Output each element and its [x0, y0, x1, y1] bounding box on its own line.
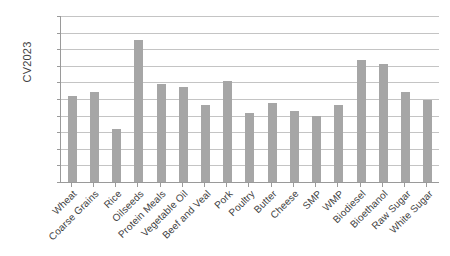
x-tick-mark — [160, 183, 161, 187]
bar — [401, 92, 410, 182]
bar — [179, 87, 188, 182]
bar — [112, 129, 121, 182]
bar-slot — [61, 16, 83, 182]
bar — [90, 92, 99, 182]
x-axis-ticks — [60, 183, 438, 187]
bar — [357, 60, 366, 182]
x-tick-mark — [137, 183, 138, 187]
bar-slot — [372, 16, 394, 182]
x-tick-slot — [82, 183, 104, 187]
x-tick-slot — [60, 183, 82, 187]
x-label-slot: Pork — [216, 188, 238, 254]
x-label-slot: Beef and Veal — [193, 188, 215, 254]
bar-slot — [217, 16, 239, 182]
x-axis-labels: WheatCoarse GrainsRiceOilseedsProtein Me… — [60, 188, 438, 254]
bar — [201, 105, 210, 182]
x-tick-slot — [171, 183, 193, 187]
x-tick-slot — [149, 183, 171, 187]
x-tick-mark — [337, 183, 338, 187]
x-tick-mark — [93, 183, 94, 187]
x-tick-slot — [193, 183, 215, 187]
x-label-slot: White Sugar — [416, 188, 438, 254]
x-tick-slot — [394, 183, 416, 187]
x-tick-mark — [271, 183, 272, 187]
x-tick-slot — [371, 183, 393, 187]
x-tick-mark — [115, 183, 116, 187]
x-label-slot: SMP — [305, 188, 327, 254]
bar-slot — [83, 16, 105, 182]
bar-slot — [105, 16, 127, 182]
x-label-slot: Butter — [260, 188, 282, 254]
x-tick-slot — [327, 183, 349, 187]
plot-area: 20%18%16%14%12%10%8%6%4%2%0% — [60, 16, 439, 183]
x-tick-mark — [226, 183, 227, 187]
bar-slot — [150, 16, 172, 182]
bar — [68, 96, 77, 182]
bar — [134, 40, 143, 182]
bar — [312, 116, 321, 182]
bar-slot — [128, 16, 150, 182]
bar-slot — [350, 16, 372, 182]
x-tick-mark — [71, 183, 72, 187]
x-tick-slot — [216, 183, 238, 187]
bar-slot — [283, 16, 305, 182]
bar — [423, 100, 432, 182]
x-tick-slot — [282, 183, 304, 187]
bar-chart: CV2023 20%18%16%14%12%10%8%6%4%2%0% Whea… — [0, 0, 450, 256]
x-tick-slot — [305, 183, 327, 187]
bar-slot — [417, 16, 439, 182]
bar-slot — [239, 16, 261, 182]
x-tick-mark — [382, 183, 383, 187]
bar-slot — [194, 16, 216, 182]
x-label-slot: Coarse Grains — [82, 188, 104, 254]
bar — [290, 111, 299, 182]
x-tick-slot — [416, 183, 438, 187]
x-tick-mark — [293, 183, 294, 187]
x-label-slot: Cheese — [282, 188, 304, 254]
x-tick-label: SMP — [300, 188, 323, 211]
y-axis-title: CV2023 — [21, 7, 33, 117]
x-tick-slot — [104, 183, 126, 187]
x-tick-mark — [204, 183, 205, 187]
x-tick-slot — [349, 183, 371, 187]
bar-series — [61, 16, 439, 182]
bar — [223, 81, 232, 182]
bar-slot — [261, 16, 283, 182]
bar-slot — [306, 16, 328, 182]
x-tick-mark — [360, 183, 361, 187]
x-tick-mark — [182, 183, 183, 187]
x-tick-slot — [238, 183, 260, 187]
x-tick-mark — [404, 183, 405, 187]
bar-slot — [395, 16, 417, 182]
bar-slot — [172, 16, 194, 182]
x-label-slot: Poultry — [238, 188, 260, 254]
bar — [245, 113, 254, 182]
x-tick-mark — [248, 183, 249, 187]
bar-slot — [328, 16, 350, 182]
x-tick-slot — [260, 183, 282, 187]
bar — [268, 103, 277, 182]
bar — [334, 105, 343, 182]
x-tick-slot — [127, 183, 149, 187]
x-tick-mark — [426, 183, 427, 187]
bar — [157, 84, 166, 182]
x-tick-mark — [315, 183, 316, 187]
bar — [379, 64, 388, 182]
